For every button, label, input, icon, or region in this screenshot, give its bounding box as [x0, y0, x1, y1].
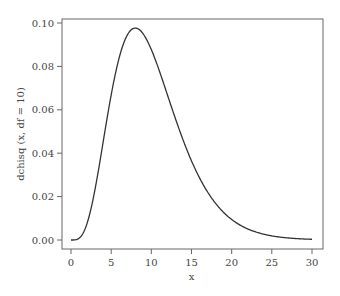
x-tick-label: 20	[225, 257, 238, 268]
y-axis: 0.00 0.02 0.04 0.06 0.08 0.10	[32, 18, 62, 246]
y-axis-label: dchisq (x, df = 10)	[15, 87, 26, 181]
y-tick-label: 0.00	[32, 235, 54, 246]
y-tick-label: 0.06	[32, 104, 54, 115]
x-tick-label: 10	[145, 257, 158, 268]
x-tick-label: 0	[68, 257, 74, 268]
y-tick-label: 0.10	[32, 18, 54, 29]
x-axis-label: x	[189, 271, 195, 282]
x-tick-label: 15	[185, 257, 198, 268]
x-tick-label: 30	[306, 257, 319, 268]
plot-frame	[62, 19, 323, 249]
y-tick-label: 0.02	[32, 191, 54, 202]
x-tick-label: 5	[108, 257, 114, 268]
chart: 0.00 0.02 0.04 0.06 0.08 0.10 0 5 10 15 …	[0, 0, 340, 296]
density-curve	[71, 28, 312, 240]
x-tick-label: 25	[265, 257, 278, 268]
x-axis: 0 5 10 15 20 25 30	[68, 249, 319, 268]
y-tick-label: 0.08	[32, 61, 54, 72]
y-tick-label: 0.04	[32, 148, 54, 159]
